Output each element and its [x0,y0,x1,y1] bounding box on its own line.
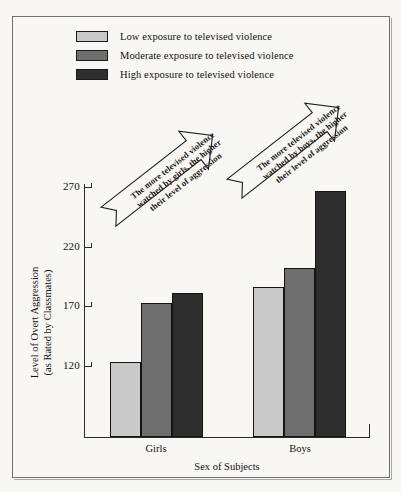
chart-legend: Low exposure to televised violence Moder… [76,28,346,85]
legend-label-moderate: Moderate exposure to televised violence [120,50,294,62]
legend-item-moderate: Moderate exposure to televised violence [76,47,346,64]
legend-swatch-low-icon [76,31,108,42]
legend-item-high: High exposure to televised violence [76,66,346,83]
legend-item-low: Low exposure to televised violence [76,28,346,45]
legend-label-high: High exposure to televised violence [120,69,274,81]
legend-swatch-high-icon [76,69,108,80]
legend-label-low: Low exposure to televised violence [120,31,272,43]
chart-frame [12,16,390,478]
legend-swatch-moderate-icon [76,50,108,61]
chart-page: Low exposure to televised violence Moder… [0,0,401,492]
